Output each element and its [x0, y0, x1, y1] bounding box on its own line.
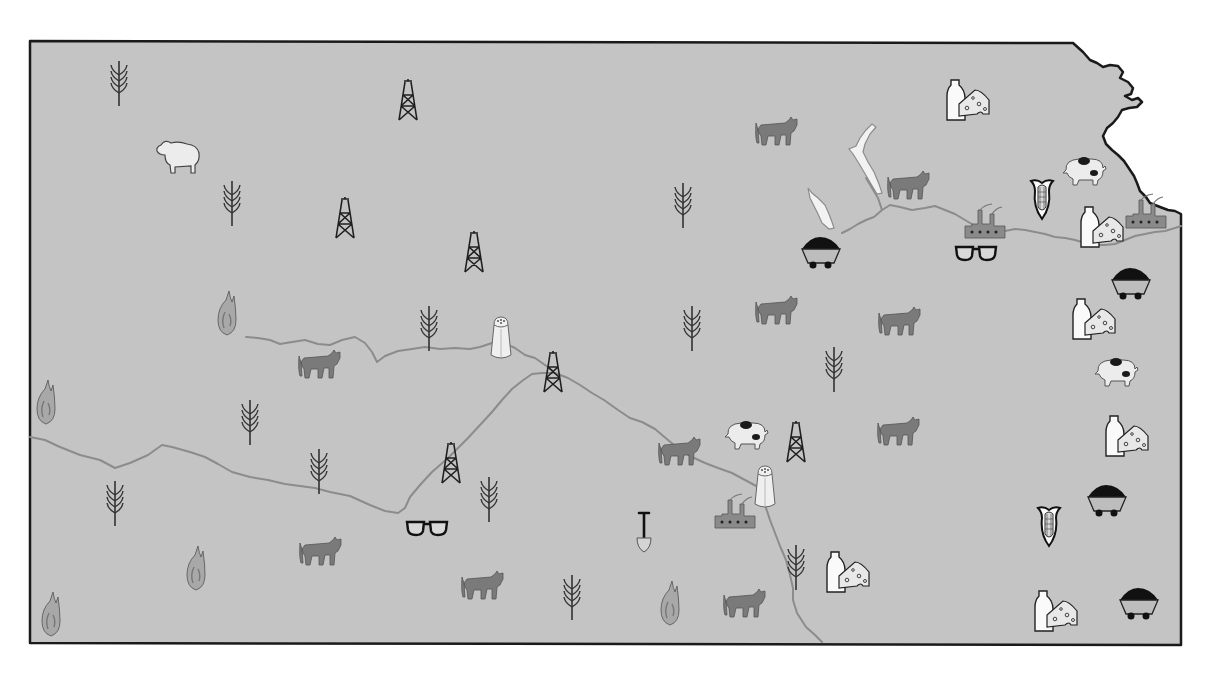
hog-icon: [1061, 156, 1107, 186]
marker-dairy: [1071, 297, 1117, 341]
wheat-icon: [307, 447, 331, 495]
marker-oil-derrick: [397, 78, 419, 122]
marker-natural-gas: [185, 545, 207, 591]
glasses-icon: [405, 519, 449, 537]
wheat-icon: [822, 345, 846, 393]
marker-natural-gas: [40, 591, 62, 637]
marker-natural-gas: [216, 290, 238, 336]
marker-factory: [1125, 194, 1167, 230]
marker-wheat: [107, 59, 131, 107]
oil-derrick-icon: [463, 230, 485, 274]
oil-derrick-icon: [542, 350, 564, 394]
wheat-icon: [560, 573, 584, 621]
dairy-icon: [1104, 414, 1150, 458]
marker-cattle: [875, 417, 921, 447]
marker-wheat: [671, 181, 695, 229]
marker-natural-gas: [35, 379, 57, 425]
marker-wheat: [680, 304, 704, 352]
marker-hog: [1093, 357, 1139, 387]
cattle-icon: [296, 350, 342, 380]
marker-corn: [1029, 175, 1055, 221]
salt-icon: [753, 464, 777, 510]
wheat-icon: [477, 475, 501, 523]
factory-icon: [964, 204, 1006, 240]
wheat-icon: [238, 398, 262, 446]
shovel-icon: [634, 510, 654, 554]
oil-derrick-icon: [440, 441, 462, 485]
coal-icon: [1110, 266, 1152, 300]
marker-oil-derrick: [785, 420, 807, 464]
marker-wheat: [784, 543, 808, 591]
dairy-icon: [1079, 205, 1125, 249]
corn-icon: [1029, 175, 1055, 221]
marker-hog: [723, 420, 769, 450]
marker-coal: [1086, 483, 1128, 517]
salt-icon: [489, 315, 513, 361]
marker-factory: [964, 204, 1006, 240]
dairy-icon: [825, 550, 871, 594]
marker-cattle: [656, 437, 702, 467]
marker-cattle: [721, 589, 767, 619]
marker-cattle: [876, 307, 922, 337]
marker-shovel: [634, 510, 654, 554]
marker-wheat: [103, 479, 127, 527]
cattle-icon: [753, 117, 799, 147]
marker-corn: [1036, 502, 1062, 548]
wheat-icon: [784, 543, 808, 591]
marker-cattle: [297, 537, 343, 567]
marker-cattle: [296, 350, 342, 380]
marker-cattle: [753, 117, 799, 147]
natural-gas-icon: [35, 379, 57, 425]
dairy-icon: [1033, 589, 1079, 633]
marker-wheat: [477, 475, 501, 523]
marker-wheat: [238, 398, 262, 446]
hog-icon: [1093, 357, 1139, 387]
marker-dairy: [1104, 414, 1150, 458]
marker-coal: [1118, 586, 1160, 620]
marker-factory: [714, 494, 756, 530]
factory-icon: [714, 494, 756, 530]
cattle-icon: [885, 171, 931, 201]
marker-oil-derrick: [542, 350, 564, 394]
marker-glasses: [405, 519, 449, 537]
marker-sheep: [153, 139, 201, 175]
marker-coal: [800, 235, 842, 269]
natural-gas-icon: [185, 545, 207, 591]
cattle-icon: [721, 589, 767, 619]
cattle-icon: [459, 571, 505, 601]
sheep-icon: [153, 139, 201, 175]
marker-wheat: [220, 179, 244, 227]
marker-wheat: [560, 573, 584, 621]
marker-cattle: [753, 296, 799, 326]
marker-wheat: [417, 304, 441, 352]
wheat-icon: [680, 304, 704, 352]
hog-icon: [723, 420, 769, 450]
resource-markers: [0, 0, 1209, 679]
oil-derrick-icon: [785, 420, 807, 464]
natural-gas-icon: [659, 580, 681, 626]
marker-wheat: [822, 345, 846, 393]
cattle-icon: [656, 437, 702, 467]
wheat-icon: [417, 304, 441, 352]
cattle-icon: [876, 307, 922, 337]
marker-dairy: [1033, 589, 1079, 633]
coal-icon: [1086, 483, 1128, 517]
marker-dairy: [825, 550, 871, 594]
wheat-icon: [107, 59, 131, 107]
wheat-icon: [671, 181, 695, 229]
marker-cattle: [885, 171, 931, 201]
marker-dairy: [1079, 205, 1125, 249]
marker-coal: [1110, 266, 1152, 300]
marker-oil-derrick: [463, 230, 485, 274]
marker-oil-derrick: [440, 441, 462, 485]
marker-salt: [753, 464, 777, 510]
natural-gas-icon: [40, 591, 62, 637]
oil-derrick-icon: [334, 196, 356, 240]
coal-icon: [1118, 586, 1160, 620]
dairy-icon: [1071, 297, 1117, 341]
cattle-icon: [753, 296, 799, 326]
marker-natural-gas: [659, 580, 681, 626]
cattle-icon: [875, 417, 921, 447]
corn-icon: [1036, 502, 1062, 548]
marker-hog: [1061, 156, 1107, 186]
